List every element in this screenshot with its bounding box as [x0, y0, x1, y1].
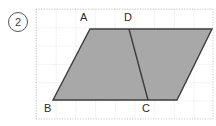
geometry-figure: 2 A D B C — [0, 0, 216, 126]
vertex-label-c: C — [142, 103, 150, 114]
vertex-label-b: B — [44, 103, 51, 114]
vertex-label-d: D — [124, 12, 132, 23]
figure-canvas — [0, 0, 216, 126]
vertex-label-a: A — [80, 12, 87, 23]
